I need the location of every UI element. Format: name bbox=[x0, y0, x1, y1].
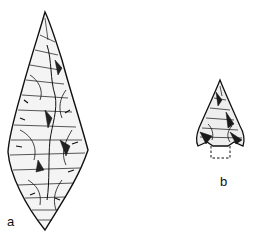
figure-label-b: b bbox=[220, 175, 227, 188]
artifact-drawing bbox=[0, 0, 256, 242]
artifact-illustration: a b bbox=[0, 0, 256, 242]
point-a-drawing bbox=[8, 12, 88, 230]
point-b-drawing bbox=[197, 80, 244, 158]
figure-label-a: a bbox=[7, 215, 14, 228]
